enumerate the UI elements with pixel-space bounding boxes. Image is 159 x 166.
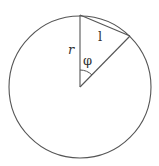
angle-label: φ bbox=[83, 53, 92, 68]
chord-line bbox=[80, 15, 130, 36]
circle-diagram: r φ l bbox=[0, 0, 159, 166]
chord-label: l bbox=[98, 29, 102, 44]
radius-label: r bbox=[68, 42, 75, 57]
diagram-canvas: r φ l bbox=[0, 0, 159, 166]
angle-arc bbox=[80, 70, 92, 75]
